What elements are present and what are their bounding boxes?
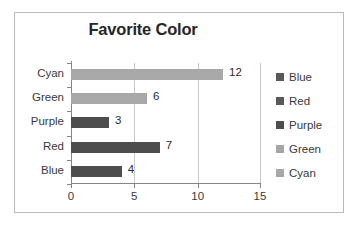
legend-label: Blue: [289, 71, 312, 83]
x-axis-tick-label: 15: [254, 190, 267, 202]
y-axis-label: Blue: [41, 164, 64, 176]
chart-title: Favorite Color: [15, 20, 271, 39]
bar-blue[interactable]: [71, 166, 122, 177]
x-axis-tick-label: 5: [131, 190, 137, 202]
bar-value-label: 6: [153, 90, 159, 102]
legend-swatch-icon: [276, 169, 284, 177]
legend-label: Red: [289, 95, 310, 107]
chart-container: Favorite Color Cyan 12 Green 6 Purple: [14, 12, 344, 213]
legend-label: Purple: [289, 119, 322, 131]
bar-row: Red 7: [71, 136, 261, 160]
x-axis-tick: [134, 184, 135, 188]
x-axis-tick-label: 0: [68, 190, 74, 202]
bar-value-label: 12: [229, 66, 242, 78]
bar-value-label: 4: [128, 163, 134, 175]
x-axis-tick: [71, 184, 72, 188]
legend-label: Green: [289, 143, 321, 155]
legend-item-green[interactable]: Green: [276, 137, 342, 161]
bar-cyan[interactable]: [71, 69, 223, 80]
bar-purple[interactable]: [71, 117, 109, 128]
bar-row: Purple 3: [71, 111, 261, 135]
x-axis-tick-label: 10: [191, 190, 204, 202]
bar-row: Cyan 12: [71, 63, 261, 87]
bar-red[interactable]: [71, 142, 160, 153]
legend-item-red[interactable]: Red: [276, 89, 342, 113]
plot-area: Cyan 12 Green 6 Purple 3 Red 7 Blue 4 0 …: [71, 63, 261, 184]
bar-row: Blue 4: [71, 160, 261, 184]
legend-item-purple[interactable]: Purple: [276, 113, 342, 137]
x-axis-tick: [198, 184, 199, 188]
bar-row: Green 6: [71, 87, 261, 111]
bar-value-label: 7: [166, 139, 172, 151]
legend-swatch-icon: [276, 121, 284, 129]
y-axis-label: Cyan: [37, 67, 64, 79]
legend-label: Cyan: [289, 167, 316, 179]
legend-swatch-icon: [276, 97, 284, 105]
bar-value-label: 3: [115, 114, 121, 126]
y-axis-label: Green: [32, 91, 64, 103]
y-axis-label: Red: [43, 140, 64, 152]
legend-item-blue[interactable]: Blue: [276, 65, 342, 89]
legend-swatch-icon: [276, 73, 284, 81]
legend-swatch-icon: [276, 145, 284, 153]
y-axis-label: Purple: [31, 115, 64, 127]
bar-green[interactable]: [71, 93, 147, 104]
x-axis-tick: [260, 184, 261, 188]
legend-item-cyan[interactable]: Cyan: [276, 161, 342, 185]
chart-legend: Blue Red Purple Green Cyan: [276, 65, 342, 185]
